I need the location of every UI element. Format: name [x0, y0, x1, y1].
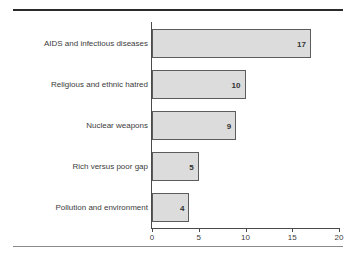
bar-value-label: 9: [227, 112, 231, 141]
category-label: Rich versus poor gap: [8, 152, 148, 181]
bar-value-label: 5: [189, 153, 193, 182]
bar-rows: AIDS and infectious diseases17Religious …: [0, 18, 361, 228]
bar: 4: [152, 193, 189, 222]
bar-value-label: 17: [297, 30, 306, 59]
bar-row: Religious and ethnic hatred10: [0, 70, 361, 99]
category-label: Religious and ethnic hatred: [8, 70, 148, 99]
x-tick-mark: [246, 228, 247, 232]
bar-chart: AIDS and infectious diseases17Religious …: [0, 18, 361, 240]
bar-row: AIDS and infectious diseases17: [0, 29, 361, 58]
y-axis-line: [151, 22, 152, 229]
x-tick-label: 0: [142, 233, 162, 242]
bar-value-label: 10: [232, 71, 241, 100]
x-tick-mark: [339, 228, 340, 232]
x-tick-mark: [152, 228, 153, 232]
x-tick-mark: [292, 228, 293, 232]
bar-row: Nuclear weapons9: [0, 111, 361, 140]
category-label: Nuclear weapons: [8, 111, 148, 140]
bottom-divider-rule: [13, 246, 343, 247]
x-tick-label: 5: [189, 233, 209, 242]
x-tick-mark: [199, 228, 200, 232]
category-label: AIDS and infectious diseases: [8, 29, 148, 58]
chart-page: AIDS and infectious diseases17Religious …: [0, 0, 361, 254]
category-label: Pollution and environment: [8, 193, 148, 222]
bar: 17: [152, 29, 311, 58]
bar-row: Pollution and environment4: [0, 193, 361, 222]
bar-value-label: 4: [180, 194, 184, 223]
x-tick-label: 10: [236, 233, 256, 242]
bar-row: Rich versus poor gap5: [0, 152, 361, 181]
x-tick-label: 20: [329, 233, 349, 242]
x-tick-label: 15: [282, 233, 302, 242]
top-divider-rule: [13, 9, 343, 11]
bar: 10: [152, 70, 246, 99]
bar: 5: [152, 152, 199, 181]
bar: 9: [152, 111, 236, 140]
